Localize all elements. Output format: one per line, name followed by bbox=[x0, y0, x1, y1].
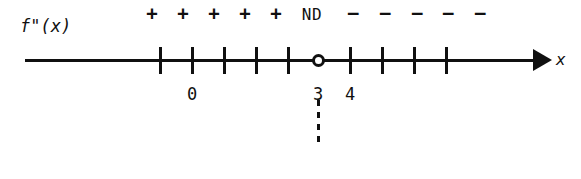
region-divider bbox=[317, 100, 320, 146]
axis-tick bbox=[191, 47, 194, 74]
open-circle-icon bbox=[312, 54, 325, 67]
axis-tick bbox=[445, 47, 448, 74]
minus-sign: − bbox=[408, 2, 426, 24]
second-derivative-label: f"(x) bbox=[20, 16, 71, 36]
concave-upward-caption: Concave Upward bbox=[165, 122, 285, 179]
plus-sign: + bbox=[143, 2, 161, 24]
axis-tick bbox=[287, 47, 290, 74]
plus-sign: + bbox=[205, 2, 223, 24]
plus-sign: + bbox=[267, 2, 285, 24]
concave-upward-line1: Concave bbox=[165, 176, 285, 179]
minus-sign: − bbox=[439, 2, 457, 24]
concavity-number-line-figure: f"(x) + + + + + ND − − − − − x 0 3 4 bbox=[0, 0, 581, 179]
minus-sign: − bbox=[344, 2, 362, 24]
value-label-0: 0 bbox=[180, 84, 204, 104]
axis-tick bbox=[159, 47, 162, 74]
arrow-head-icon bbox=[533, 49, 552, 71]
axis-tick bbox=[349, 47, 352, 74]
concave-downward-line1: Concave bbox=[355, 176, 495, 179]
graph-of-f-caption: Graph of f bbox=[0, 122, 120, 179]
plus-sign: + bbox=[174, 2, 192, 24]
axis-tick bbox=[381, 47, 384, 74]
value-label-4: 4 bbox=[338, 84, 362, 104]
axis-line bbox=[25, 59, 547, 62]
axis-tick bbox=[223, 47, 226, 74]
axis-variable-label: x bbox=[556, 50, 566, 69]
concave-downward-caption: Concave Downward bbox=[355, 122, 495, 179]
minus-sign: − bbox=[471, 2, 489, 24]
minus-sign: − bbox=[376, 2, 394, 24]
axis-tick bbox=[255, 47, 258, 74]
undefined-label: ND bbox=[292, 5, 332, 25]
graph-of-f-line1: Graph bbox=[20, 176, 120, 179]
plus-sign: + bbox=[236, 2, 254, 24]
axis-tick bbox=[413, 47, 416, 74]
